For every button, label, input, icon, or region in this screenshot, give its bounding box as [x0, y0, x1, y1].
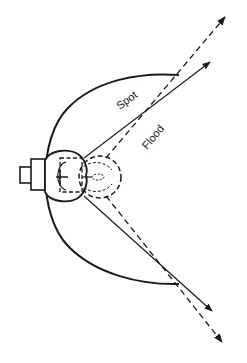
flood-beam-rays [106, 17, 225, 342]
spot-beam-rays [84, 62, 212, 311]
spot-label: Spot [114, 88, 139, 111]
flood-label: Flood [139, 122, 166, 151]
lamp-base [20, 159, 45, 190]
spotlight-diagram: Spot Flood [0, 0, 247, 363]
filament-flood-position [79, 156, 121, 198]
